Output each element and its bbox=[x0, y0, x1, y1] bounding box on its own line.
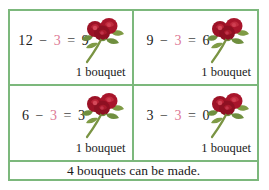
rose-bouquet-icon bbox=[80, 88, 126, 140]
equation-cell-1: 12 − 3 = 9 bbox=[10, 11, 134, 86]
subtrahend-2: 3 bbox=[175, 33, 183, 49]
subtrahend-1: 3 bbox=[54, 33, 62, 49]
minuend-2: 9 bbox=[147, 33, 155, 49]
rose-bouquet-icon bbox=[80, 13, 126, 65]
minuend-4: 3 bbox=[147, 108, 155, 124]
equals-sign-2: = bbox=[186, 33, 198, 49]
conclusion-banner: 4 bouquets can be made. bbox=[10, 160, 257, 179]
minus-operator-2: − bbox=[158, 33, 170, 49]
bouquet-label-2: 1 bouquet bbox=[201, 65, 251, 80]
bouquet-label-3: 1 bouquet bbox=[76, 141, 126, 156]
equation-cell-3: 6 − 3 = 3 bbox=[10, 86, 134, 161]
equation-cell-2: 9 − 3 = 6 bbox=[134, 11, 258, 86]
subtrahend-4: 3 bbox=[175, 108, 183, 124]
minus-operator-1: − bbox=[37, 33, 49, 49]
subtrahend-3: 3 bbox=[50, 108, 58, 124]
conclusion-text: 4 bouquets can be made. bbox=[67, 163, 200, 179]
bouquet-label-4: 1 bouquet bbox=[201, 141, 251, 156]
equals-sign-3: = bbox=[62, 108, 74, 124]
equals-sign-4: = bbox=[186, 108, 198, 124]
minuend-1: 12 bbox=[18, 33, 33, 49]
bouquet-label-1: 1 bouquet bbox=[76, 65, 126, 80]
minus-operator-4: − bbox=[158, 108, 170, 124]
equation-grid: 12 − 3 = 9 bbox=[10, 11, 257, 160]
worksheet-frame: 12 − 3 = 9 bbox=[8, 9, 259, 181]
minuend-3: 6 bbox=[22, 108, 30, 124]
equation-cell-4: 3 − 3 = 0 bbox=[134, 86, 258, 161]
rose-bouquet-icon bbox=[205, 13, 251, 65]
rose-bouquet-icon bbox=[205, 88, 251, 140]
minus-operator-3: − bbox=[34, 108, 46, 124]
worksheet-image: 12 − 3 = 9 bbox=[0, 0, 269, 190]
equals-sign-1: = bbox=[65, 33, 77, 49]
